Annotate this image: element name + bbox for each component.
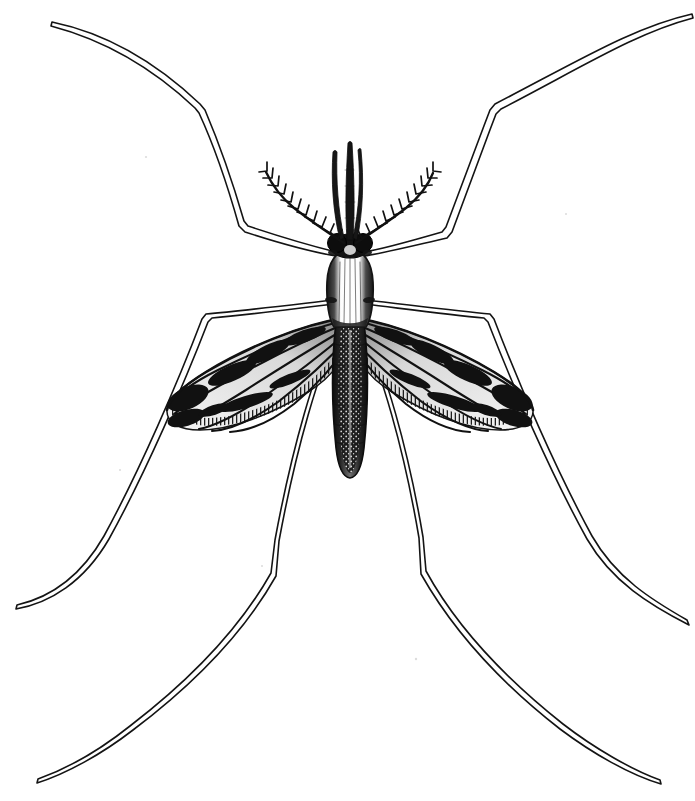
proboscis [346, 142, 354, 241]
mosquito-drawing-canvas [0, 0, 695, 801]
abdomen [333, 322, 368, 478]
mosquito-illustration [0, 0, 695, 801]
head-highlight [344, 245, 356, 255]
thorax [327, 250, 373, 327]
